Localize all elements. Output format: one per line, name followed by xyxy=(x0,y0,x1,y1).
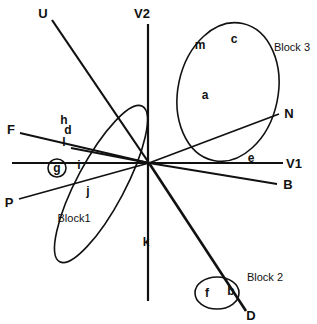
biplot-figure: V1V2UNBFPDBlock1Block 2Block 3gmcaehdlij… xyxy=(0,0,317,324)
point-l-label: l xyxy=(62,136,65,148)
axis-label-V1: V1 xyxy=(286,157,302,170)
point-k-label: k xyxy=(143,236,150,248)
axis-label-U: U xyxy=(38,7,47,20)
point-f-label: f xyxy=(205,287,209,299)
block-label-block-2: Block 2 xyxy=(247,272,283,283)
axis-label-B: B xyxy=(283,178,292,191)
axis-line-N xyxy=(149,114,279,163)
point-c-label: c xyxy=(231,33,238,45)
axis-label-V2: V2 xyxy=(134,7,150,20)
point-i-label: i xyxy=(77,159,80,171)
axis-label-P: P xyxy=(5,196,14,209)
block-label-block-3: Block 3 xyxy=(274,42,310,53)
axis-label-F: F xyxy=(7,123,15,136)
point-b-label: b xyxy=(227,285,234,297)
point-m-label: m xyxy=(195,39,206,51)
axis-line-B xyxy=(149,163,277,184)
point-d-label: d xyxy=(64,124,71,136)
point-g-label: g xyxy=(53,162,60,174)
block3-ellipse xyxy=(165,13,292,171)
axis-label-N: N xyxy=(284,107,293,120)
point-a-label: a xyxy=(202,89,209,101)
point-j-label: j xyxy=(86,185,89,197)
point-e-label: e xyxy=(248,152,255,164)
axis-line-U xyxy=(52,20,149,163)
axis-label-D: D xyxy=(246,309,255,322)
block-label-block1: Block1 xyxy=(57,213,90,224)
